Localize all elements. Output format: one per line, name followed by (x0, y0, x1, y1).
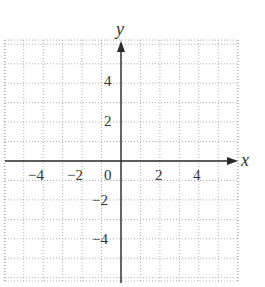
y-axis-arrow-icon (117, 41, 125, 52)
y-tick-label: −2 (92, 193, 108, 208)
x-axis-arrow-icon (227, 157, 238, 165)
x-tick-label: −4 (28, 168, 44, 183)
y-tick-label: 2 (104, 114, 112, 129)
x-tick-label: 4 (193, 168, 201, 183)
x-tick-label: 0 (104, 168, 112, 183)
x-tick-label: 2 (155, 168, 163, 183)
y-tick-label: 4 (104, 74, 112, 89)
x-tick-label: −2 (67, 168, 83, 183)
coordinate-plane (0, 0, 265, 287)
y-axis-label: y (116, 20, 124, 38)
y-tick-label: −4 (92, 232, 108, 247)
x-axis-label: x (241, 151, 249, 169)
